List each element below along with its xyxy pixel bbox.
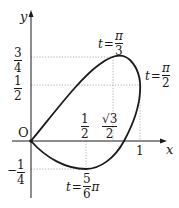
axes [12, 10, 167, 198]
x-tick-numerator: 1 [81, 113, 89, 125]
x-tick-denominator: 2 [106, 128, 114, 140]
y-tick-half: 1 2 [14, 75, 22, 102]
y-tick-numerator: 1 [17, 159, 25, 171]
annotation-eq: = [72, 180, 82, 194]
x-tick-half: 1 2 [81, 113, 89, 140]
annotation-numerator: π [162, 62, 170, 74]
annotation-denominator: 2 [162, 77, 170, 89]
y-tick-neg-sign: − [7, 164, 17, 176]
annotation-fraction: π 2 [162, 62, 170, 89]
y-axis-label: y [20, 10, 27, 23]
y-tick-neg-quarter: 1 4 [17, 159, 25, 186]
y-tick-numerator: 3 [14, 47, 22, 59]
annotation-t-5pi-over-6: t = 5 6 π [66, 173, 99, 200]
annotation-fraction: π 3 [115, 30, 123, 57]
annotation-t-pi-over-3: t = π 3 [98, 30, 123, 57]
annotation-var: t [145, 69, 150, 83]
annotation-t-pi-over-2: t = π 2 [145, 62, 170, 89]
annotation-numerator: 5 [83, 173, 91, 185]
annotation-denominator: 6 [83, 188, 91, 200]
origin-label: O [18, 126, 29, 139]
annotation-eq: = [104, 37, 114, 51]
y-axis-arrow-icon [29, 10, 34, 17]
x-axis-label: x [166, 143, 173, 156]
y-tick-three-quarters: 3 4 [14, 47, 22, 74]
y-tick-numerator: 1 [14, 75, 22, 87]
annotation-denominator: 3 [115, 45, 123, 57]
annotation-var: t [66, 180, 71, 194]
annotation-numerator: π [115, 30, 123, 42]
origin-dot [29, 139, 33, 143]
x-tick-one: 1 [136, 145, 144, 157]
x-tick-sqrt3-half: √3 2 [102, 113, 117, 140]
annotation-suffix: π [92, 180, 100, 194]
x-tick-numerator: √3 [102, 113, 117, 125]
y-tick-denominator: 4 [17, 174, 25, 186]
annotation-eq: = [151, 69, 161, 83]
y-tick-denominator: 4 [14, 62, 22, 74]
x-tick-denominator: 2 [81, 128, 89, 140]
y-tick-denominator: 2 [14, 90, 22, 102]
annotation-fraction: 5 6 [83, 173, 91, 200]
annotation-var: t [98, 37, 103, 51]
